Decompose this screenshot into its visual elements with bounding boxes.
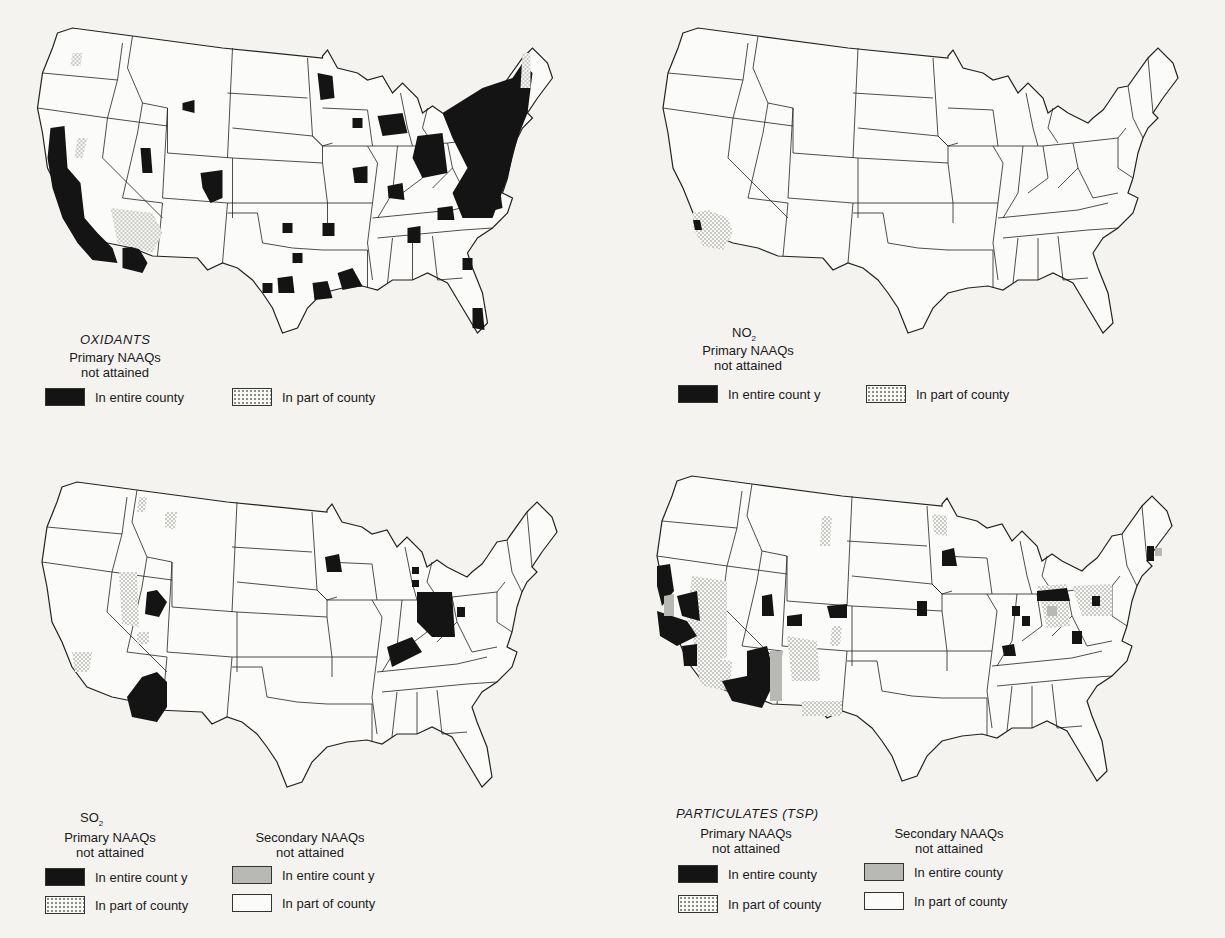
legend-swatch-gray [232, 866, 272, 884]
legend-heading-secondary: Secondary NAAQs not attained [235, 830, 385, 860]
legend-heading-primary: Primary NAAQs not attained [45, 830, 175, 860]
legend-swatch-dots [232, 388, 272, 406]
legend-swatch-white [864, 892, 904, 910]
legend-heading-secondary: Secondary NAAQs not attained [874, 826, 1024, 856]
legend-item-part-county: In part of county [866, 385, 1009, 403]
legend-item-primary-part-county: In part of county [45, 896, 188, 914]
panel-particulates: PARTICULATES (TSP) Primary NAAQs not att… [612, 460, 1225, 938]
panel-title: OXIDANTS [80, 332, 150, 347]
legend-swatch-gray [864, 863, 904, 881]
panel-no2: NO2 Primary NAAQs not attained In entire… [612, 0, 1225, 460]
legend-item-entire-county: In entire count y [678, 385, 821, 403]
legend-item-secondary-entire-county: In entire county [864, 863, 1003, 881]
legend-swatch-dots [45, 896, 85, 914]
panel-title: NO2 [732, 325, 756, 343]
us-map-no2 [648, 18, 1193, 348]
us-map-so2 [22, 472, 577, 802]
legend-swatch-dots [866, 385, 906, 403]
panel-title: SO2 [80, 810, 103, 828]
legend-swatch-white [232, 894, 272, 912]
us-map-oxidants [20, 18, 570, 348]
panel-so2: SO2 Primary NAAQs not attained Secondary… [0, 460, 612, 938]
panel-oxidants: OXIDANTS Primary NAAQs not attained In e… [0, 0, 612, 460]
legend-item-secondary-part-county: In part of county [864, 892, 1007, 910]
legend-swatch-black [678, 865, 718, 883]
legend-heading-primary: Primary NAAQs not attained [676, 826, 816, 856]
legend-swatch-black [45, 388, 85, 406]
legend-heading-primary: Primary NAAQs not attained [45, 350, 185, 380]
legend-item-primary-part-county: In part of county [678, 895, 821, 913]
legend-item-primary-entire-county: In entire count y [45, 868, 188, 886]
panel-title: PARTICULATES (TSP) [676, 806, 819, 821]
legend-item-secondary-part-county: In part of county [232, 894, 375, 912]
us-map-particulates [632, 466, 1197, 796]
legend-item-primary-entire-county: In entire county [678, 865, 817, 883]
legend-item-secondary-entire-county: In entire count y [232, 866, 375, 884]
legend-heading-primary: Primary NAAQs not attained [678, 343, 818, 373]
legend-swatch-dots [678, 895, 718, 913]
legend-swatch-black [678, 385, 718, 403]
legend-item-entire-county: In entire county [45, 388, 184, 406]
legend-swatch-black [45, 868, 85, 886]
legend-item-part-county: In part of county [232, 388, 375, 406]
